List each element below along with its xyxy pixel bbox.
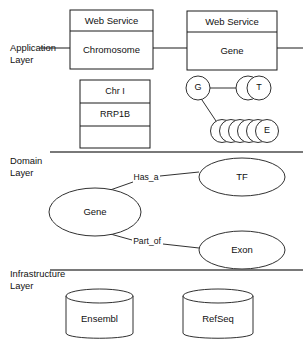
edge-part-of-right [163, 244, 199, 248]
entity-gene[interactable]: Gene [49, 188, 141, 236]
object-node-t-stack[interactable]: T [236, 76, 271, 100]
web-service-gene[interactable]: Web Service Gene [187, 11, 277, 70]
relation-label-has-a: Has_a [134, 172, 159, 182]
relation-label-part-of: Part_of [133, 236, 161, 246]
node-t-label: T [256, 82, 262, 92]
node-e-label: E [264, 125, 270, 135]
entity-exon[interactable]: Exon [199, 231, 285, 269]
entity-exon-label: Exon [231, 244, 253, 255]
database-refseq[interactable]: RefSeq [183, 289, 253, 338]
chromosome-record-table[interactable]: Chr I RRP1B [80, 80, 150, 148]
record-row-2: RRP1B [100, 109, 130, 119]
ws-gene-header: Web Service [205, 16, 259, 27]
architecture-diagram: Application Layer Domain Layer Infrastru… [0, 0, 303, 348]
ws-chromosome-body: Chromosome [83, 44, 140, 55]
object-node-e-stack[interactable]: E [211, 120, 279, 143]
entity-tf-label: TF [236, 171, 248, 182]
node-g-label: G [194, 82, 201, 92]
ws-chromosome-header: Web Service [85, 15, 139, 26]
web-service-chromosome[interactable]: Web Service Chromosome [70, 10, 153, 69]
db-refseq-top [183, 289, 253, 303]
db-ensembl-label: Ensembl [81, 313, 118, 324]
entity-tf[interactable]: TF [199, 158, 285, 196]
record-row-1: Chr I [105, 86, 125, 96]
entity-gene-label: Gene [83, 206, 106, 217]
db-refseq-label: RefSeq [202, 313, 234, 324]
edge-has-a-right [160, 172, 199, 176]
ws-gene-body: Gene [220, 45, 243, 56]
object-node-g[interactable]: G [186, 76, 210, 100]
db-ensembl-top [66, 289, 133, 303]
database-ensembl[interactable]: Ensembl [66, 289, 133, 338]
